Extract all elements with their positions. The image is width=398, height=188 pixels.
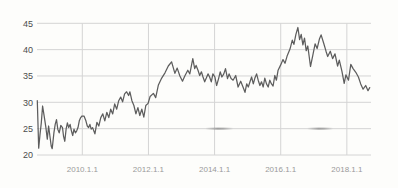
stock-price-chart: 4540353025202010.1.12012.1.12014.1.12016… — [0, 0, 398, 188]
x-tick-label: 2010.1.1 — [67, 165, 99, 174]
chart-canvas: 4540353025202010.1.12012.1.12014.1.12016… — [0, 0, 398, 188]
y-tick-label: 40 — [23, 45, 33, 55]
price-line-series — [37, 28, 369, 149]
y-tick-label: 45 — [23, 19, 33, 29]
y-tick-label: 25 — [23, 124, 33, 134]
y-tick-label: 35 — [23, 71, 33, 81]
y-tick-label: 20 — [23, 150, 33, 160]
x-tick-label: 2018.1.1 — [331, 165, 363, 174]
x-tick-label: 2016.1.1 — [265, 165, 297, 174]
x-tick-label: 2012.1.1 — [133, 165, 165, 174]
x-tick-label: 2014.1.1 — [199, 165, 231, 174]
y-tick-label: 30 — [23, 98, 33, 108]
